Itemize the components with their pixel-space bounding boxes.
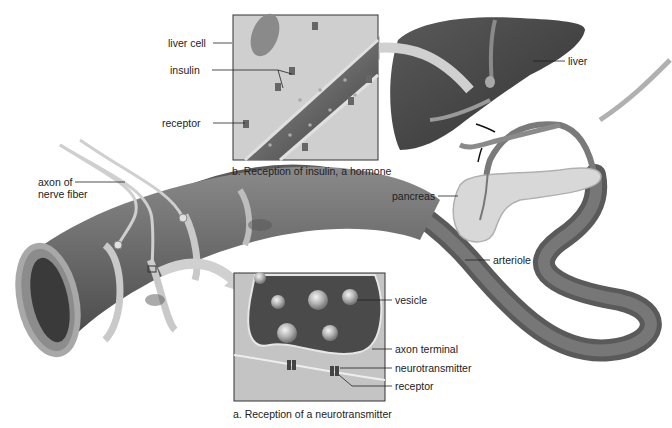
panel-a-neurotransmitter xyxy=(234,272,392,401)
portal-branch xyxy=(600,60,670,120)
label-receptor-b: receptor xyxy=(162,117,201,129)
caption-panel-a: a. Reception of a neurotransmitter xyxy=(233,408,392,420)
label-liver-cell: liver cell xyxy=(168,37,206,49)
panel-b-insulin xyxy=(212,10,378,160)
label-pancreas: pancreas xyxy=(392,190,435,202)
liver xyxy=(390,17,585,150)
label-receptor-a: receptor xyxy=(395,380,434,392)
label-axon-of-nerve-fiber: axon of nerve fiber xyxy=(38,176,88,200)
caption-panel-b: b. Reception of insulin, a hormone xyxy=(232,165,391,177)
label-neurotransmitter: neurotransmitter xyxy=(395,362,471,374)
label-insulin: insulin xyxy=(170,64,200,76)
label-axon-terminal: axon terminal xyxy=(395,343,458,355)
label-arteriole: arteriole xyxy=(493,254,531,266)
label-liver: liver xyxy=(568,55,587,67)
label-vesicle: vesicle xyxy=(395,294,427,306)
